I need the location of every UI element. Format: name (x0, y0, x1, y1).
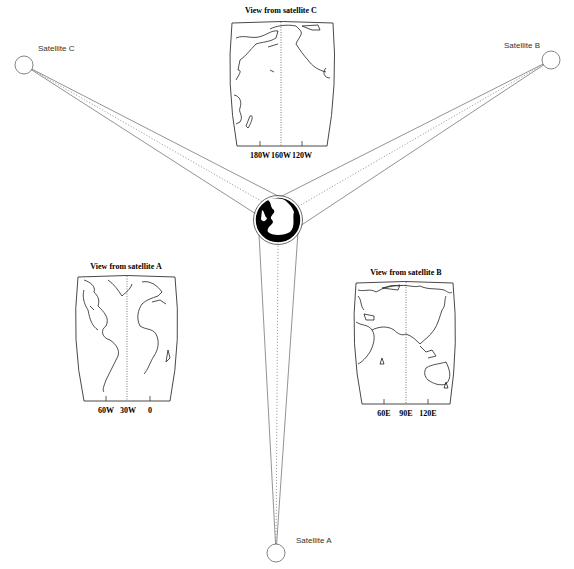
satellite-c-label: Satellite C (38, 44, 75, 53)
view-b-frame (354, 282, 455, 405)
view-c-tick-1: 180W (250, 151, 270, 160)
satellite-a-label: Satellite A (296, 536, 332, 545)
earth-globe (254, 196, 303, 245)
view-c-title: View from satellite C (245, 6, 317, 15)
satellite-b: Satellite B (504, 41, 560, 69)
view-b-tick-3: 120E (419, 409, 436, 418)
rays-to-satellite-a (259, 232, 298, 553)
satellite-a-icon (267, 544, 285, 562)
view-c-tick-2: 160W (271, 151, 291, 160)
view-a-tick-3: 0 (148, 406, 152, 415)
satellite-b-icon (542, 51, 560, 69)
satellite-views-diagram: Satellite C Satellite B Satellite A View… (0, 0, 574, 569)
view-satellite-b: View from satellite B 60E 90E 120E (354, 268, 455, 418)
view-b-tick-1: 60E (377, 409, 390, 418)
satellite-c-icon (15, 56, 33, 74)
view-a-tick-1: 60W (98, 406, 114, 415)
view-a-title: View from satellite A (90, 262, 162, 271)
satellite-c: Satellite C (15, 44, 75, 74)
view-a-frame (76, 276, 178, 402)
view-b-title: View from satellite B (370, 268, 442, 277)
view-c-tick-3: 120W (292, 151, 312, 160)
satellite-b-label: Satellite B (504, 41, 540, 50)
view-satellite-c: View from satellite C 180W 160W 120W (230, 6, 335, 160)
view-a-tick-2: 30W (120, 406, 136, 415)
view-c-frame (230, 22, 335, 147)
view-b-tick-2: 90E (399, 409, 412, 418)
view-satellite-a: View from satellite A 60W 30W 0 (76, 262, 178, 415)
